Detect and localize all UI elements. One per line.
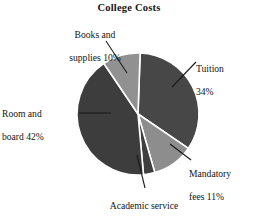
slice-label-tuition-line1: Tuition — [196, 63, 224, 74]
slice-label-academic-line1: Academic service — [110, 200, 178, 211]
slice-label-room-line1: Room and — [2, 108, 42, 119]
slice-label-tuition-line2: 34% — [196, 86, 214, 97]
slice-label-tuition: Tuition 34% — [196, 52, 254, 98]
slice-label-academic-service-fees: Academic service fees 3% — [88, 189, 200, 220]
slice-label-mandatory-line1: Mandatory — [189, 168, 231, 179]
slice-label-books-and-supplies: Books and supplies 10% — [53, 18, 137, 64]
slice-label-room-and-board: Room and board 42% — [2, 97, 78, 143]
slice-label-books-line1: Books and — [75, 29, 116, 40]
slice-label-room-line2: board 42% — [2, 131, 44, 142]
slice-label-books-line2: supplies 10% — [69, 52, 120, 63]
pie-chart-figure: College Costs Books and supplies 10% Tu — [0, 0, 258, 220]
pie-slices — [77, 53, 199, 175]
